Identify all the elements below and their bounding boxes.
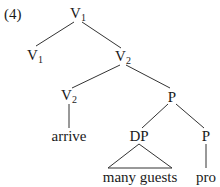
node-dp: DP (129, 128, 148, 144)
node-v2-low: V2 (61, 87, 77, 108)
leaf-pro: pro (196, 169, 216, 185)
leaf-many-guests: many guests (103, 169, 178, 185)
node-v1: V1 (27, 47, 43, 68)
node-p-low: P (202, 128, 210, 144)
node-root-v1: V1 (70, 5, 86, 26)
tree-branches (0, 0, 220, 187)
node-v2: V2 (115, 48, 131, 69)
dp-triangle (108, 144, 172, 168)
node-p: P (168, 89, 176, 105)
leaf-arrive: arrive (52, 128, 87, 144)
